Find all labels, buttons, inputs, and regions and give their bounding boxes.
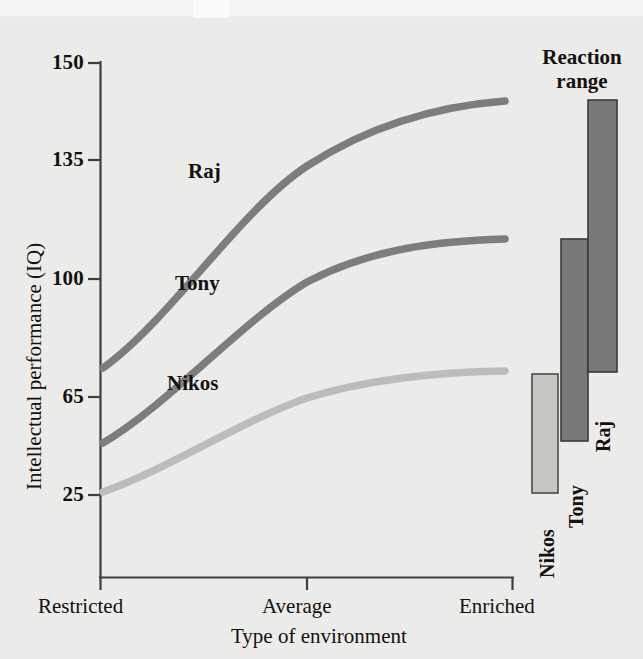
y-tick-label-150: 150: [26, 50, 84, 75]
bar-label-raj: Raj: [592, 421, 615, 452]
bar-raj: [588, 100, 617, 372]
bar-nikos: [532, 374, 558, 493]
curve-raj: [103, 101, 505, 368]
curve-label-tony: Tony: [175, 271, 220, 296]
legend-title-line1: Reaction: [542, 45, 621, 69]
bar-tony: [561, 239, 588, 441]
x-axis-title: Type of environment: [231, 624, 407, 649]
curve-tony: [103, 239, 505, 443]
bar-label-tony: Tony: [565, 485, 588, 528]
curve-label-nikos: Nikos: [167, 371, 218, 396]
series-curves: [103, 101, 505, 492]
y-axis-title: Intellectual performance (IQ): [22, 243, 47, 490]
legend-title-line2: range: [556, 69, 607, 93]
y-tick-label-135: 135: [26, 147, 84, 172]
legend-title: Reaction range: [526, 46, 638, 93]
curve-label-raj: Raj: [188, 159, 221, 184]
x-tick-label-restricted: Restricted: [38, 594, 123, 619]
x-tick-label-enriched: Enriched: [459, 594, 535, 619]
curve-nikos: [103, 371, 505, 492]
x-tick-label-average: Average: [262, 594, 332, 619]
bar-label-nikos: Nikos: [536, 529, 559, 578]
